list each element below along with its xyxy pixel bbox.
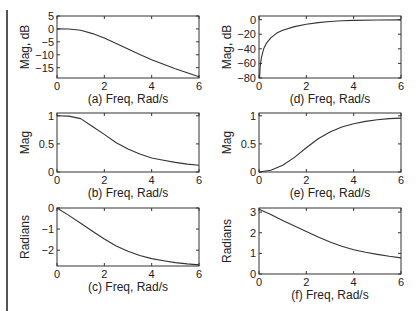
x-tick-label: 4 bbox=[149, 174, 155, 186]
y-axis-label: Mag bbox=[220, 131, 234, 154]
subplot-e: 024610.50(e) Freq, Rad/sMag bbox=[220, 110, 404, 200]
x-tick-label: 2 bbox=[101, 268, 107, 280]
x-tick-label: 4 bbox=[149, 80, 155, 92]
x-tick-label: 2 bbox=[101, 80, 107, 92]
x-tick-label: 2 bbox=[303, 276, 309, 288]
x-axis-label: (c) Freq, Rad/s bbox=[88, 280, 168, 294]
y-tick-label: 0.5 bbox=[39, 138, 54, 150]
subplot-d: 02460−20−40−60−80(d) Freq, Rad/sMag, dB bbox=[220, 14, 404, 106]
x-tick-label: 4 bbox=[351, 276, 357, 288]
y-tick-label: −10 bbox=[35, 49, 54, 61]
y-tick-label: 0 bbox=[48, 166, 54, 178]
subplot-b: 024610.50(b) Freq, Rad/sMag bbox=[18, 110, 202, 200]
x-axis-label: (a) Freq, Rad/s bbox=[88, 92, 169, 106]
x-tick-label: 6 bbox=[398, 80, 404, 92]
x-tick-label: 2 bbox=[101, 174, 107, 186]
x-tick-label: 6 bbox=[196, 268, 202, 280]
x-tick-label: 4 bbox=[149, 268, 155, 280]
subplot-c: 02460−1−2(c) Freq, Rad/sRadians bbox=[18, 202, 202, 294]
y-tick-label: 0 bbox=[250, 268, 256, 280]
y-tick-label: 1 bbox=[48, 110, 54, 122]
x-tick-label: 0 bbox=[256, 276, 262, 288]
figure-canvas: 024650−5−10−15(a) Freq, Rad/sMag, dB0246… bbox=[0, 0, 416, 311]
y-tick-label: 3 bbox=[250, 206, 256, 218]
axes-frame bbox=[57, 16, 199, 78]
y-tick-label: −60 bbox=[237, 57, 256, 69]
x-tick-label: 0 bbox=[54, 268, 60, 280]
y-tick-label: 1 bbox=[250, 110, 256, 122]
y-tick-label: −5 bbox=[41, 36, 54, 48]
data-curve bbox=[57, 29, 199, 77]
data-curve bbox=[259, 209, 401, 258]
axes-frame bbox=[259, 208, 401, 274]
data-curve bbox=[259, 118, 401, 172]
x-tick-label: 0 bbox=[256, 80, 262, 92]
x-tick-label: 2 bbox=[303, 174, 309, 186]
x-tick-label: 6 bbox=[196, 80, 202, 92]
x-tick-label: 6 bbox=[196, 174, 202, 186]
y-tick-label: −40 bbox=[237, 43, 256, 55]
data-curve bbox=[57, 208, 199, 265]
subplot-f: 02463210(f) Freq, Rad/sRadians bbox=[220, 206, 404, 302]
axes-frame bbox=[57, 208, 199, 266]
data-curve bbox=[260, 20, 402, 78]
x-axis-label: (b) Freq, Rad/s bbox=[88, 186, 169, 200]
y-tick-label: −2 bbox=[41, 244, 54, 256]
y-tick-label: 2 bbox=[250, 227, 256, 239]
y-tick-label: 5 bbox=[48, 10, 54, 22]
y-tick-label: 0 bbox=[48, 23, 54, 35]
x-tick-label: 2 bbox=[303, 80, 309, 92]
y-axis-label: Radians bbox=[18, 215, 32, 259]
x-tick-label: 0 bbox=[54, 80, 60, 92]
axes-frame bbox=[259, 16, 401, 78]
y-tick-label: −20 bbox=[237, 28, 256, 40]
x-axis-label: (e) Freq, Rad/s bbox=[290, 186, 371, 200]
y-tick-label: 0.5 bbox=[241, 138, 256, 150]
y-axis-label: Mag bbox=[18, 131, 32, 154]
data-curve bbox=[57, 116, 199, 166]
y-tick-label: 0 bbox=[250, 14, 256, 26]
y-axis-label: Mag, dB bbox=[220, 25, 234, 70]
axes-frame bbox=[259, 113, 401, 172]
y-axis-label: Radians bbox=[220, 219, 234, 263]
y-tick-label: 0 bbox=[250, 166, 256, 178]
subplot-a: 024650−5−10−15(a) Freq, Rad/sMag, dB bbox=[18, 10, 202, 106]
x-tick-label: 4 bbox=[351, 80, 357, 92]
x-tick-label: 4 bbox=[351, 174, 357, 186]
x-tick-label: 6 bbox=[398, 276, 404, 288]
y-tick-label: −80 bbox=[237, 72, 256, 84]
y-tick-label: 0 bbox=[48, 202, 54, 214]
y-axis-label: Mag, dB bbox=[18, 25, 32, 70]
x-axis-label: (d) Freq, Rad/s bbox=[290, 92, 371, 106]
x-axis-label: (f) Freq, Rad/s bbox=[291, 288, 368, 302]
x-tick-label: 6 bbox=[398, 174, 404, 186]
x-tick-label: 0 bbox=[256, 174, 262, 186]
y-tick-label: −15 bbox=[35, 62, 54, 74]
y-tick-label: −1 bbox=[41, 223, 54, 235]
x-tick-label: 0 bbox=[54, 174, 60, 186]
y-tick-label: 1 bbox=[250, 247, 256, 259]
